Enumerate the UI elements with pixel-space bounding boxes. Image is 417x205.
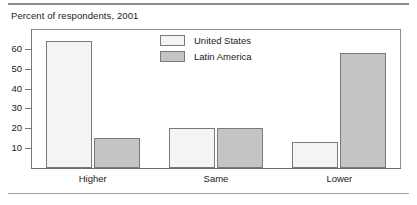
legend-swatch-icon-latin-america <box>160 51 185 62</box>
legend-item-united-states: United States <box>160 33 290 48</box>
bar-lower-latin-america <box>340 53 386 168</box>
chart-legend: United States Latin America <box>160 33 290 65</box>
x-axis-label-higher: Higher <box>53 173 133 184</box>
bar-same-united-states <box>169 128 215 168</box>
legend-label-united-states: United States <box>194 35 251 46</box>
y-axis-tick-label: 30 <box>11 103 22 113</box>
top-divider-rule <box>8 3 409 5</box>
x-axis-label-lower: Lower <box>299 173 379 184</box>
bar-lower-united-states <box>292 142 338 168</box>
y-axis-tick-label: 40 <box>11 84 22 94</box>
y-axis-tick-label: 50 <box>11 64 22 74</box>
bar-same-latin-america <box>217 128 263 168</box>
bar-higher-latin-america <box>94 138 140 168</box>
legend-swatch-icon-united-states <box>160 35 185 46</box>
x-axis-baseline <box>31 168 401 169</box>
chart-title: Percent of respondents, 2001 <box>11 10 138 21</box>
x-axis-label-same: Same <box>176 173 256 184</box>
bottom-divider-rule <box>8 193 409 194</box>
legend-item-latin-america: Latin America <box>160 49 290 64</box>
bar-higher-united-states <box>46 41 92 168</box>
y-axis-tick-label: 60 <box>11 44 22 54</box>
chart-figure: Percent of respondents, 2001 10203040506… <box>0 0 417 205</box>
y-axis-tick-label: 10 <box>11 143 22 153</box>
y-axis-tick-label: 20 <box>11 123 22 133</box>
legend-label-latin-america: Latin America <box>194 51 252 62</box>
